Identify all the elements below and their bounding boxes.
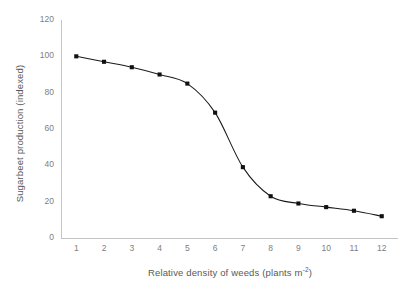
y-tick-label: 40	[20, 159, 54, 169]
y-tick-label: 60	[20, 123, 54, 133]
data-point	[296, 201, 300, 205]
data-point	[352, 209, 356, 213]
data-point	[185, 82, 189, 86]
y-axis-title: Sugarbeet production (indexed)	[14, 29, 25, 239]
x-tick-label: 12	[371, 243, 393, 253]
series-markers	[74, 54, 384, 218]
x-tick-label: 11	[343, 243, 365, 253]
data-point	[380, 214, 384, 218]
data-point	[158, 72, 162, 76]
y-tick-label: 0	[20, 232, 54, 242]
x-axis-title: Relative density of weeds (plants m-2)	[60, 266, 400, 278]
x-tick-label: 1	[65, 243, 87, 253]
plot-area	[61, 20, 397, 238]
data-point	[130, 65, 134, 69]
y-tick-label: 100	[20, 50, 54, 60]
x-tick-label: 5	[176, 243, 198, 253]
chart-figure: 020406080100120 123456789101112 Sugarbee…	[0, 0, 419, 296]
x-axis-line	[61, 238, 398, 239]
y-tick-label: 20	[20, 196, 54, 206]
x-axis-title-main: Relative density of weeds (plants m	[148, 267, 303, 278]
data-point	[102, 60, 106, 64]
x-tick-label: 10	[315, 243, 337, 253]
x-tick-label: 3	[121, 243, 143, 253]
y-tick-label: 80	[20, 87, 54, 97]
x-tick-label: 6	[204, 243, 226, 253]
x-tick-label: 8	[260, 243, 282, 253]
data-series-sugarbeet-production	[61, 20, 397, 238]
data-point	[269, 194, 273, 198]
x-tick-label: 9	[287, 243, 309, 253]
series-line	[76, 56, 381, 216]
data-point	[213, 111, 217, 115]
data-point	[74, 54, 78, 58]
x-tick-label: 2	[93, 243, 115, 253]
x-tick-label: 4	[149, 243, 171, 253]
data-point	[324, 205, 328, 209]
x-tick-label: 7	[232, 243, 254, 253]
y-tick-label: 120	[20, 14, 54, 24]
x-axis-title-tail: )	[309, 267, 312, 278]
data-point	[241, 165, 245, 169]
